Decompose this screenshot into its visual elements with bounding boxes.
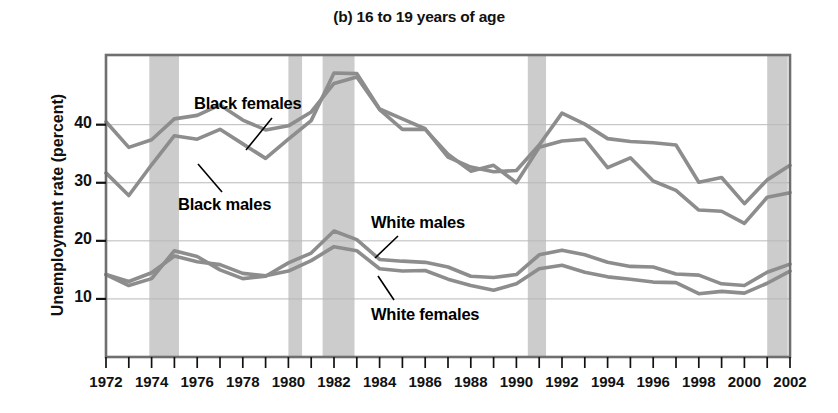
y-tick-label: 30 [52, 172, 92, 190]
recession-band [528, 55, 546, 357]
y-tick-label: 10 [52, 288, 92, 306]
series-annotation-black-males: Black males [178, 195, 271, 214]
x-tick-label: 1998 [678, 373, 720, 390]
x-tick-label: 2000 [723, 373, 765, 390]
x-tick-label: 1972 [85, 373, 127, 390]
y-tick-label: 20 [52, 230, 92, 248]
x-tick-label: 1986 [404, 373, 446, 390]
x-tick-label: 1994 [587, 373, 629, 390]
x-tick-label: 1990 [495, 373, 537, 390]
x-tick-label: 1996 [632, 373, 674, 390]
plot-canvas [0, 0, 838, 413]
recession-band [767, 55, 788, 357]
annotation-leader-line [375, 236, 398, 258]
recession-band [323, 55, 355, 357]
x-tick-label: 1982 [313, 373, 355, 390]
x-tick-label: 1978 [222, 373, 264, 390]
x-axis-ticks-group [106, 357, 790, 368]
y-axis-label: Unemployment rate (percent) [49, 55, 67, 355]
x-tick-label: 1984 [359, 373, 401, 390]
x-tick-label: 1974 [131, 373, 173, 390]
series-annotation-white-males: White males [371, 213, 465, 232]
data-line [106, 247, 790, 294]
x-tick-label: 1980 [267, 373, 309, 390]
chart-figure: (b) 16 to 19 years of age Unemployment r… [0, 0, 838, 413]
x-tick-label: 1988 [450, 373, 492, 390]
series-annotation-white-females: White females [371, 305, 479, 324]
x-tick-label: 1976 [176, 373, 218, 390]
x-tick-label: 2002 [769, 373, 811, 390]
y-tick-label: 40 [52, 114, 92, 132]
chart-title: (b) 16 to 19 years of age [0, 8, 838, 26]
data-line [106, 73, 790, 204]
annotation-leader-line [198, 164, 222, 192]
annotation-leader-line [378, 276, 394, 300]
y-axis-ticks-group [96, 125, 106, 299]
x-tick-label: 1992 [541, 373, 583, 390]
recession-band [149, 55, 179, 357]
series-annotation-black-females: Black females [194, 94, 301, 113]
